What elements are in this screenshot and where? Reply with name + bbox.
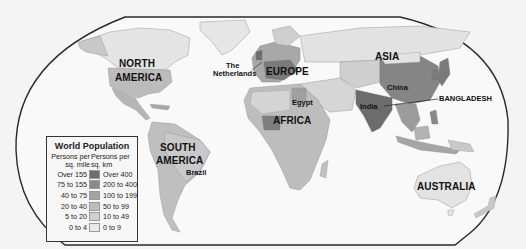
label-north: NORTH — [119, 58, 155, 69]
korea — [432, 70, 438, 80]
uk — [256, 50, 262, 60]
legend-headers: Persons per sq. mile Persons per sq. km — [47, 151, 137, 169]
legend-row: 5 to 20 10 to 49 — [47, 211, 137, 222]
label-brazil: Brazil — [186, 169, 206, 177]
legend-header-mile: Persons per sq. mile — [50, 153, 90, 169]
label-india: India — [360, 103, 378, 111]
legend-mile-value: 75 to 155 — [47, 180, 89, 189]
label-netherlands: Netherlands — [213, 70, 256, 78]
label-europe: EUROPE — [266, 67, 309, 77]
label-bangladesh: BANGLADESH — [439, 95, 492, 103]
legend: World Population Persons per sq. mile Pe… — [46, 136, 138, 242]
label-south-america-2: AMERICA — [156, 156, 203, 166]
legend-mile-value: 40 to 75 — [47, 191, 89, 200]
legend-mile-value: 0 to 4 — [47, 223, 89, 232]
legend-row: 75 to 155 200 to 400 — [47, 180, 137, 191]
legend-title: World Population — [47, 141, 137, 151]
legend-mile-value: Over 155 — [47, 170, 89, 179]
legend-swatch — [89, 212, 100, 221]
legend-mile-value: 5 to 20 — [47, 212, 89, 221]
borneo — [414, 126, 430, 140]
label-south-america-text: AMERICA — [156, 155, 203, 166]
legend-mile-value: 20 to 40 — [47, 202, 89, 211]
legend-km-value: 100 to 199 — [100, 191, 137, 200]
label-asia: ASIA — [375, 52, 399, 62]
label-america-text: AMERICA — [115, 72, 162, 83]
label-north-america: NORTH — [119, 59, 155, 69]
legend-km-value: 10 to 49 — [100, 212, 129, 221]
label-south-america: SOUTH — [160, 143, 196, 153]
label-america: AMERICA — [115, 73, 162, 83]
legend-swatch — [89, 202, 100, 211]
legend-header-km: Persons per sq. km — [91, 153, 135, 169]
label-egypt: Egypt — [292, 99, 313, 107]
legend-row: 40 to 75 100 to 199 — [47, 190, 137, 201]
legend-swatch — [89, 180, 100, 189]
label-australia: AUSTRALIA — [417, 182, 476, 192]
legend-row: Over 155 Over 400 — [47, 169, 137, 180]
legend-swatch — [89, 223, 100, 232]
label-china: China — [387, 84, 408, 92]
legend-row: 0 to 4 0 to 9 — [47, 222, 137, 233]
legend-swatch — [89, 191, 100, 200]
legend-km-value: Over 400 — [100, 170, 133, 179]
label-south: SOUTH — [160, 142, 196, 153]
legend-row: 20 to 40 50 to 99 — [47, 201, 137, 212]
legend-km-value: 0 to 9 — [100, 223, 121, 232]
label-africa: AFRICA — [273, 116, 311, 126]
legend-km-value: 50 to 99 — [100, 202, 129, 211]
legend-swatch — [89, 170, 100, 179]
legend-km-value: 200 to 400 — [100, 180, 137, 189]
